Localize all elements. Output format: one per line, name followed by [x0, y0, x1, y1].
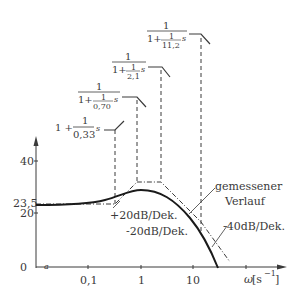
pole-glyph-icon-1 [122, 97, 146, 107]
x-axis-arrow-icon [277, 265, 287, 270]
x-tick-10: 10 [186, 274, 200, 287]
svg-text:1 +: 1 + [55, 122, 73, 133]
y-tick-0: 0 [20, 261, 27, 274]
factor-pole-2-1: 1 1+ 1 2,1 s [112, 51, 146, 81]
annotation-measured-2: Verlauf [224, 195, 266, 208]
pole-glyph-icon-2 [148, 67, 170, 77]
factor-pole-11-2: 1 1+ 1 11,2 s [147, 20, 187, 50]
svg-text:1: 1 [169, 32, 174, 41]
svg-text:0,70: 0,70 [93, 102, 111, 111]
svg-text:0,33: 0,33 [73, 129, 95, 140]
svg-text:1: 1 [96, 81, 102, 92]
x-tick-1: 1 [138, 274, 145, 287]
factor-pole-0-70: 1 1+ 1 0,70 s [78, 81, 120, 111]
annotation-measured-1: gemessener [215, 180, 283, 193]
x-axis-label: ω [s −1 ] [244, 269, 279, 286]
factor-glyphs [104, 34, 210, 130]
zero-glyph-icon [104, 121, 124, 130]
svg-text:s: s [141, 65, 145, 74]
svg-text:1: 1 [131, 63, 136, 72]
svg-text:s: s [114, 95, 118, 104]
origin-mark: a [44, 262, 49, 271]
svg-text:s: s [96, 124, 100, 133]
svg-text:1: 1 [82, 115, 88, 126]
svg-text:1+: 1+ [147, 33, 162, 44]
x-tick-0-1: 0,1 [80, 274, 98, 287]
svg-text:1: 1 [163, 20, 169, 31]
svg-text:1+: 1+ [78, 94, 93, 105]
y-tick-20: 20 [20, 207, 34, 220]
y-tick-40: 40 [20, 155, 34, 168]
annotation-minus40: -40dB/Dek. [223, 220, 285, 233]
annotation-plus20: +20dB/Dek. [110, 209, 178, 222]
svg-text:1: 1 [125, 51, 131, 62]
svg-text:s: s [182, 34, 186, 43]
svg-text:1: 1 [101, 93, 106, 102]
bode-diagram: 40 23,5 20 0 a 0,1 1 10 ω [s −1 ] 1 + 1 … [0, 0, 294, 298]
y-axis-arrow-icon [34, 136, 39, 146]
svg-text:1+: 1+ [112, 64, 127, 75]
svg-text:]: ] [275, 273, 279, 286]
factor-zero-0-33: 1 + 1 0,33 s [55, 115, 100, 140]
pole-glyph-icon-3 [189, 34, 210, 44]
svg-text:11,2: 11,2 [162, 41, 180, 50]
svg-text:2,1: 2,1 [127, 72, 140, 81]
annotation-minus20: -20dB/Dek. [126, 225, 188, 238]
svg-text:[s: [s [252, 273, 262, 286]
